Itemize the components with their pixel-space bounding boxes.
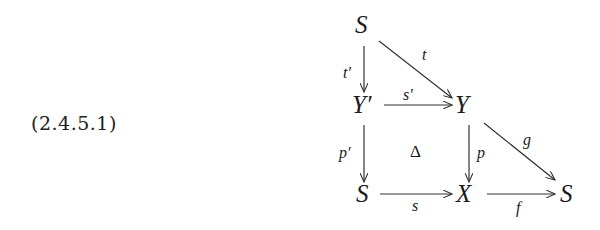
delta-symbol: Δ: [410, 142, 421, 161]
commutative-diagram: S Y′ Y S X S t′ t s′ p′ p g s f Δ: [0, 0, 600, 230]
label-p: p: [476, 144, 485, 162]
node-y-prime: Y′: [352, 91, 372, 118]
label-f: f: [516, 199, 523, 217]
label-t-prime: t′: [343, 64, 351, 81]
node-bottom-right-s: S: [560, 180, 573, 207]
arrow-g: [484, 123, 555, 180]
label-t: t: [422, 46, 427, 63]
node-y: Y: [455, 91, 472, 118]
label-s: s: [412, 197, 418, 214]
label-s-prime: s′: [403, 86, 413, 103]
node-top-s: S: [355, 11, 368, 38]
label-p-prime: p′: [338, 144, 351, 162]
arrow-t: [379, 41, 452, 98]
node-x: X: [455, 180, 473, 207]
node-bottom-left-s: S: [356, 180, 369, 207]
label-g: g: [523, 131, 531, 149]
